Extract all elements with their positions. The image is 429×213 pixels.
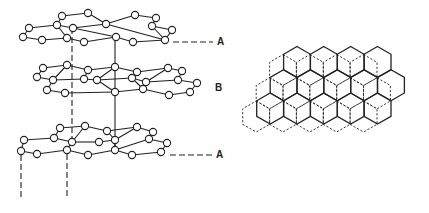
layer-A-bottom [17,122,170,158]
atom-node [102,20,109,27]
label-layer-a-top: A [217,37,224,47]
atom-node [49,76,56,83]
atom-node [157,148,164,155]
atom-node [93,76,100,83]
atom-node [63,146,70,153]
atom-node [163,139,170,146]
atom-node [61,89,68,96]
atom-node [152,14,159,21]
atom-node [139,85,146,92]
atom-node [25,24,32,31]
bond-edge [146,80,178,82]
atom-node [178,67,185,74]
bond-edge [115,139,149,150]
atom-node [81,122,88,129]
atom-node [63,61,70,68]
atom-node [53,21,60,28]
atom-node [103,127,110,134]
atom-node [193,79,200,86]
label-layer-b: B [215,83,222,93]
atom-node [17,147,24,154]
bond-edge [37,150,67,154]
bond-edge [133,40,165,42]
layer-B-middle [33,61,200,98]
bond-edge [106,15,135,24]
atom-node [165,91,172,98]
layer-A-top [19,9,175,45]
atom-node [112,33,119,40]
bond-edge [29,25,57,28]
atom-node [111,63,118,70]
atom-node [39,64,46,71]
atom-node [111,88,118,95]
atom-node [95,138,102,145]
atom-node [111,146,118,153]
bond-edge [115,89,143,92]
bond-edge [73,24,106,28]
atom-node [84,151,91,158]
atom-node [80,38,87,45]
atom-node [63,34,70,41]
atom-node [148,22,155,29]
atom-node [168,26,175,33]
atom-node [84,9,91,16]
bond-edge [24,138,54,140]
atom-node [33,73,40,80]
atom-node [131,11,138,18]
atom-node [80,75,87,82]
graphite-structure-figure: A B A [0,0,429,213]
atom-node [161,36,168,43]
atom-node [69,24,76,31]
atom-node [133,68,140,75]
atom-node [128,151,135,158]
atom-node [50,134,57,141]
label-layer-a-bottom: A [216,150,223,160]
atom-node [145,135,152,142]
hexagon-solid [378,70,405,101]
atom-node [20,136,27,143]
atom-node [43,86,50,93]
atom-node [68,138,75,145]
diagram-canvas [0,0,429,213]
bond-edge [84,37,116,42]
hexagonal-plan-view [243,47,405,133]
atom-node [142,78,149,85]
atom-node [149,128,156,135]
atom-node [133,123,140,130]
atom-node [84,66,91,73]
atom-node [129,38,136,45]
atom-node [174,76,181,83]
bond-edge [53,79,84,80]
atom-node [58,12,65,19]
atom-node [111,136,118,143]
bond-edge [132,152,161,155]
atom-node [33,150,40,157]
bond-edge [107,127,137,131]
atom-node [128,74,135,81]
atom-node [186,88,193,95]
atom-node [164,64,171,71]
atom-node [19,33,26,40]
atom-node [38,36,45,43]
bond-edge [73,28,116,37]
layer-stacking-view [17,9,213,198]
atom-node [56,124,63,131]
